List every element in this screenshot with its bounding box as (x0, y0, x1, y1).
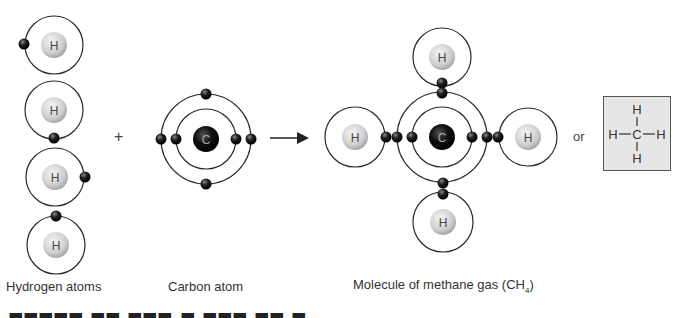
carbon-atom-caption: Carbon atom (168, 279, 243, 294)
methane-caption-end: ) (529, 277, 533, 292)
methane-hydrogen-left: H (325, 107, 385, 167)
electron (437, 88, 448, 99)
clipped-figure-caption: ▂▂▂▂▂ ▂▂ ▂▂▂ ▂ ▂▂▂ ▂▂ ▂ (10, 300, 308, 318)
hydrogen-atoms-group: HHHH (19, 16, 91, 274)
carbon-nucleus-label: C (202, 133, 211, 147)
hydrogen-nucleus-label: H (438, 51, 447, 65)
sf-right-h: H (656, 127, 665, 142)
hydrogen-nucleus-label: H (51, 171, 60, 185)
methane-hydrogen-top: H (413, 28, 471, 86)
electron (231, 134, 242, 145)
hydrogen-atom-1: H (19, 16, 84, 74)
methane-caption: Molecule of methane gas (CH4) (353, 277, 534, 295)
electron (482, 132, 493, 143)
electron (19, 39, 30, 50)
carbon-nucleus-label: C (438, 131, 447, 145)
electron (246, 134, 257, 145)
electron (201, 179, 212, 190)
hydrogen-nucleus-label: H (50, 104, 59, 118)
carbon-atom-group: C (156, 89, 257, 190)
electron (438, 189, 449, 200)
sf-center-c: C (632, 127, 641, 142)
electron (407, 132, 418, 143)
hydrogen-nucleus-label: H (52, 239, 61, 253)
methane-hydrogen-right: H (499, 108, 557, 166)
hydrogen-nucleus-label: H (351, 131, 360, 145)
electron (80, 172, 91, 183)
hydrogen-atom-2: H (25, 81, 83, 144)
hydrogen-nucleus-label: H (50, 39, 59, 53)
electron (51, 211, 62, 222)
hydrogen-atoms-caption: Hydrogen atoms (6, 279, 101, 294)
sf-bottom-h: H (632, 151, 641, 166)
plus-sign: + (114, 128, 123, 146)
methane-carbon: C (397, 92, 487, 182)
sf-top-h: H (632, 102, 641, 117)
electron (49, 133, 60, 144)
hydrogen-nucleus-label: H (439, 216, 448, 230)
structural-formula-box: H H C H H (603, 96, 671, 171)
methane-hydrogen-bottom: H (413, 192, 473, 252)
electron (381, 132, 392, 143)
methane-molecule-group: HHHHC (325, 28, 557, 252)
electron (201, 89, 212, 100)
hydrogen-atom-4: H (27, 211, 85, 275)
electron (438, 178, 449, 189)
electron (392, 132, 403, 143)
electron (467, 132, 478, 143)
structural-formula: H H C H H (604, 97, 670, 169)
electron (437, 78, 448, 89)
electron (171, 134, 182, 145)
methane-caption-main: Molecule of methane gas (CH (353, 277, 525, 292)
or-label: or (573, 129, 585, 144)
sf-left-h: H (608, 127, 617, 142)
hydrogen-atom-3: H (26, 148, 91, 206)
hydrogen-nucleus-label: H (524, 131, 533, 145)
electron (156, 134, 167, 145)
electron (493, 132, 504, 143)
